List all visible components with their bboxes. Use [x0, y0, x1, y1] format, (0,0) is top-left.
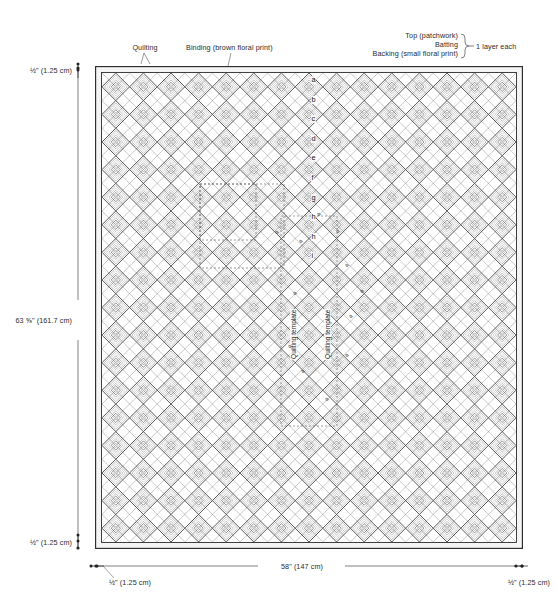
dimension-height: 63 ⅝" (161.7 cm) [0, 316, 72, 325]
center-letter-g: g [311, 194, 316, 202]
center-letter-f: f [311, 174, 314, 182]
center-letter-i-repeat: i [311, 252, 314, 260]
annotation-quilting-template-right: Quilting template [324, 309, 331, 360]
center-letter-h: h [311, 213, 316, 221]
dimension-bottom-right-margin: ½" (1.25 cm) [440, 578, 550, 587]
diagram-canvas: Quilting Binding (brown floral print) To… [0, 0, 558, 616]
dimension-top-left-seam: ½" (1.25 cm) [0, 66, 72, 75]
center-letter-h-repeat: h [311, 233, 316, 241]
center-letter-d: d [311, 135, 316, 143]
dimension-width: 58" (147 cm) [262, 562, 342, 571]
quilt-body [95, 66, 523, 549]
center-letter-b: b [311, 96, 316, 104]
center-letter-a: a [311, 76, 316, 84]
annotation-quilting: Quilting [116, 43, 174, 52]
dimension-bottom-left-seam: ½" (1.25 cm) [0, 538, 72, 547]
center-letter-e: e [311, 154, 316, 162]
annotation-layer-backing: Backing (small floral print) [300, 49, 458, 58]
annotation-layer-count: 1 layer each [476, 42, 516, 51]
annotation-layer-batting: Batting [300, 40, 458, 49]
dimension-bottom-left-margin: ½" (1.25 cm) [109, 578, 151, 587]
annotation-layer-top: Top (patchwork) [300, 31, 458, 40]
annotation-quilting-template-left: Quilting template [290, 309, 297, 360]
quilt-pattern [95, 66, 523, 549]
annotation-binding: Binding (brown floral print) [186, 43, 273, 52]
center-letter-c: c [311, 115, 316, 123]
